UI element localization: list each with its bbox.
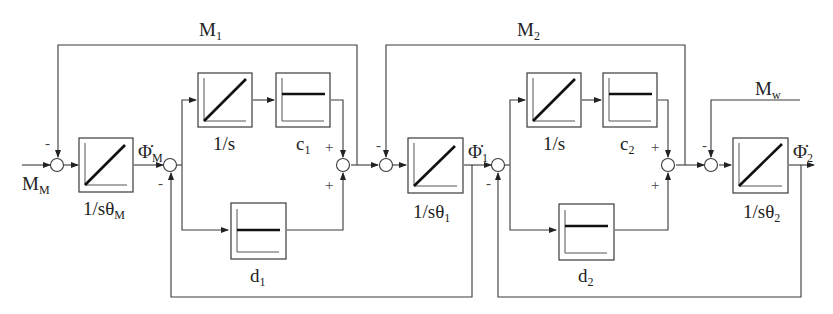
wire-to-integrator-1	[182, 100, 196, 165]
label-inertia-2: 1/sθ2	[743, 201, 780, 225]
block-stiffness-2	[603, 73, 657, 127]
sum-junction-1	[51, 159, 64, 172]
sign-sum3-plus-top: +	[325, 139, 333, 155]
block-integrator-1	[198, 73, 252, 127]
sign-sum4-minus: -	[376, 137, 381, 153]
sign-sum2-minus: -	[158, 175, 163, 191]
sum-junction-5	[492, 159, 505, 172]
label-inertia-motor: 1/sθM	[83, 198, 125, 222]
block-inertia-2	[733, 138, 788, 193]
label-damping-1: d1	[250, 265, 266, 289]
sign-sum5-minus: -	[486, 175, 491, 191]
sign-sum1-minus: -	[45, 135, 50, 151]
label-speed-2: Φ̇2	[793, 141, 813, 165]
label-stiffness-2: c2	[620, 133, 634, 157]
sum-junction-3	[337, 159, 350, 172]
sum-junction-2	[164, 159, 177, 172]
wire-to-integrator-2	[510, 100, 525, 165]
label-inertia-1: 1/sθ1	[413, 201, 450, 225]
sign-sum7-minus: -	[702, 137, 707, 153]
sum-junction-6	[662, 159, 675, 172]
block-damping-2	[559, 204, 614, 260]
sign-sum3-plus-bottom: +	[325, 177, 333, 193]
label-damping-2: d2	[578, 265, 594, 289]
wire-c2-to-sum6	[658, 100, 668, 157]
block-inertia-motor	[79, 138, 133, 192]
label-speed-motor: Φ̇M	[138, 141, 163, 165]
sum-junction-4	[380, 159, 393, 172]
sign-sum6-plus-top: +	[651, 139, 659, 155]
label-input-torque: MM	[22, 173, 50, 197]
block-diagram: - - + + - - + + - MM M1 M2 Mw Φ̇M Φ̇1 Φ̇…	[0, 0, 833, 314]
label-stiffness-1: c1	[296, 133, 310, 157]
label-load-torque: Mw	[755, 78, 781, 102]
sum-junction-7	[705, 159, 718, 172]
label-integrator-1: 1/s	[213, 133, 235, 154]
wire-d1-to-sum3	[287, 173, 343, 230]
label-integrator-2: 1/s	[543, 133, 565, 154]
block-inertia-1	[408, 138, 463, 193]
wire-d2-to-sum6	[615, 173, 668, 230]
sign-sum6-plus-bottom: +	[651, 177, 659, 193]
block-stiffness-1	[276, 73, 330, 127]
wire-to-damping-2	[510, 165, 556, 230]
block-integrator-2	[527, 73, 581, 127]
label-shaft-torque-2: M2	[517, 19, 540, 43]
label-shaft-torque-1: M1	[199, 19, 222, 43]
label-speed-1: Φ̇1	[468, 141, 488, 165]
wire-to-damping-1	[182, 165, 228, 230]
block-damping-1	[231, 203, 286, 259]
